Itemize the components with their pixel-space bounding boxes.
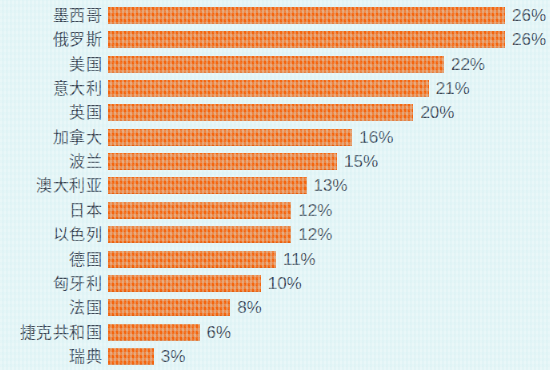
- bar: [108, 7, 505, 24]
- category-label: 美国: [0, 56, 102, 73]
- bar-track: 11%: [108, 251, 316, 268]
- bar-track: 22%: [108, 56, 485, 73]
- category-label: 意大利: [0, 80, 102, 97]
- bar-row: 法国8%: [0, 299, 550, 316]
- bar-track: 26%: [108, 31, 546, 48]
- bar-value-label: 21%: [436, 80, 470, 97]
- category-label: 澳大利亚: [0, 177, 102, 194]
- bar-value-label: 12%: [298, 202, 332, 219]
- bar-value-label: 3%: [161, 348, 186, 365]
- category-label: 日本: [0, 202, 102, 219]
- bar-track: 21%: [108, 80, 470, 97]
- category-label: 加拿大: [0, 129, 102, 146]
- bar-track: 12%: [108, 226, 332, 243]
- bar-track: 15%: [108, 153, 378, 170]
- bar-track: 16%: [108, 129, 393, 146]
- bar-value-label: 22%: [451, 56, 485, 73]
- bar: [108, 226, 291, 243]
- bar-track: 26%: [108, 7, 546, 24]
- bar-row: 墨西哥26%: [0, 7, 550, 24]
- bar: [108, 251, 276, 268]
- bar-track: 20%: [108, 104, 454, 121]
- bar-value-label: 11%: [283, 251, 316, 268]
- bar-value-label: 15%: [344, 153, 378, 170]
- bar-track: 6%: [108, 324, 231, 341]
- bar: [108, 129, 352, 146]
- category-label: 法国: [0, 299, 102, 316]
- bar-track: 10%: [108, 275, 302, 292]
- bar-track: 12%: [108, 202, 332, 219]
- category-label: 英国: [0, 104, 102, 121]
- bar-row: 加拿大16%: [0, 129, 550, 146]
- bar-value-label: 12%: [298, 226, 332, 243]
- category-label: 德国: [0, 251, 102, 268]
- bar: [108, 202, 291, 219]
- bar-value-label: 13%: [314, 177, 348, 194]
- bar-track: 3%: [108, 348, 185, 365]
- bar: [108, 31, 505, 48]
- bar: [108, 177, 307, 194]
- bar-track: 8%: [108, 299, 262, 316]
- bar-row: 澳大利亚13%: [0, 177, 550, 194]
- category-label: 以色列: [0, 226, 102, 243]
- bar: [108, 275, 261, 292]
- bar-row: 波兰15%: [0, 153, 550, 170]
- bar-value-label: 6%: [207, 324, 232, 341]
- category-label: 俄罗斯: [0, 31, 102, 48]
- bar-row: 以色列12%: [0, 226, 550, 243]
- bar: [108, 56, 444, 73]
- bar-row: 美国22%: [0, 56, 550, 73]
- category-label: 墨西哥: [0, 7, 102, 24]
- bar-row: 匈牙利10%: [0, 275, 550, 292]
- bar-value-label: 8%: [237, 299, 262, 316]
- bar-value-label: 26%: [512, 31, 546, 48]
- bar: [108, 104, 413, 121]
- category-label: 瑞典: [0, 348, 102, 365]
- bar-row: 德国11%: [0, 251, 550, 268]
- bar-row: 意大利21%: [0, 80, 550, 97]
- bar-track: 13%: [108, 177, 348, 194]
- category-label: 波兰: [0, 153, 102, 170]
- bar-row: 日本12%: [0, 202, 550, 219]
- bar: [108, 348, 154, 365]
- bar-row: 瑞典3%: [0, 348, 550, 365]
- bar-value-label: 20%: [420, 104, 454, 121]
- bar-value-label: 16%: [359, 129, 393, 146]
- bar: [108, 299, 230, 316]
- bar-chart: 墨西哥26%俄罗斯26%美国22%意大利21%英国20%加拿大16%波兰15%澳…: [0, 0, 550, 370]
- bar-row: 英国20%: [0, 104, 550, 121]
- bar-row: 俄罗斯26%: [0, 31, 550, 48]
- bar: [108, 324, 200, 341]
- bar-row: 捷克共和国6%: [0, 324, 550, 341]
- bar-value-label: 26%: [512, 7, 546, 24]
- bar: [108, 80, 429, 97]
- bar-value-label: 10%: [268, 275, 302, 292]
- category-label: 匈牙利: [0, 275, 102, 292]
- bar: [108, 153, 337, 170]
- category-label: 捷克共和国: [0, 324, 102, 341]
